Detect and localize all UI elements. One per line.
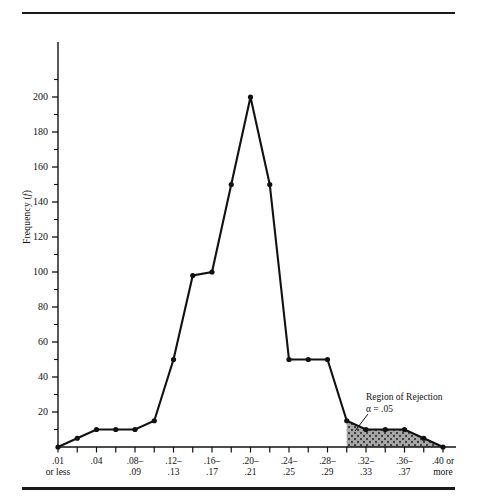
x-tick-label-line2: .29 xyxy=(319,467,336,478)
x-tick-label-line2: .33 xyxy=(358,467,375,478)
x-tick-label-4: .08–.09 xyxy=(127,456,144,478)
x-tick-label-18: .36–.37 xyxy=(396,456,413,478)
y-tick-label-40: 40 xyxy=(18,371,48,382)
x-tick-label-line1: .12– xyxy=(165,456,182,467)
x-tick-label-14: .28–.29 xyxy=(319,456,336,478)
x-tick-label-12: .24–.25 xyxy=(281,456,298,478)
x-tick-label-16: .32–.33 xyxy=(358,456,375,478)
y-axis-title: Frequency (f) xyxy=(22,157,32,277)
annotation-line-1: Region of Rejection xyxy=(366,392,443,402)
y-tick-label-120: 120 xyxy=(18,231,48,242)
region-of-rejection-annotation: Region of Rejection α = .05 xyxy=(366,392,443,415)
x-tick-label-line2: .37 xyxy=(396,467,413,478)
x-tick-label-line1: .28– xyxy=(319,456,336,467)
x-tick-label-line2: .21 xyxy=(242,467,259,478)
x-tick-label-line2: more xyxy=(432,467,454,478)
y-tick-label-180: 180 xyxy=(18,126,48,137)
x-tick-label-line2: .25 xyxy=(281,467,298,478)
y-tick-label-60: 60 xyxy=(18,336,48,347)
x-tick-label-line2: .13 xyxy=(165,467,182,478)
x-tick-label-line1: .32– xyxy=(358,456,375,467)
rejection-region-shading xyxy=(347,421,443,447)
frequency-polygon-svg xyxy=(0,0,477,504)
x-tick-label-6: .12–.13 xyxy=(165,456,182,478)
x-tick-label-line1: .04 xyxy=(91,456,103,467)
x-tick-label-10: .20–.21 xyxy=(242,456,259,478)
figure-container: Frequency (f) 20406080100120140160180200… xyxy=(0,0,477,504)
y-tick-label-160: 160 xyxy=(18,161,48,172)
x-tick-label-20: .40 ormore xyxy=(432,456,454,478)
y-tick-label-20: 20 xyxy=(18,406,48,417)
chart-plot-area: Frequency (f) 20406080100120140160180200… xyxy=(0,0,477,504)
x-tick-label-line1: .36– xyxy=(396,456,413,467)
x-tick-label-line1: .40 or xyxy=(432,456,454,467)
chart-axes xyxy=(52,42,456,453)
annotation-line-2: α = .05 xyxy=(366,404,443,416)
x-tick-label-line1: .01 xyxy=(46,456,71,467)
y-tick-label-80: 80 xyxy=(18,301,48,312)
x-tick-label-line2: or less xyxy=(46,467,71,478)
x-tick-label-0: .01or less xyxy=(46,456,71,478)
x-tick-label-line1: .24– xyxy=(281,456,298,467)
y-tick-label-200: 200 xyxy=(18,91,48,102)
x-tick-label-line1: .08– xyxy=(127,456,144,467)
x-tick-label-line2: .17 xyxy=(204,467,221,478)
y-axis-title-suffix: ) xyxy=(22,190,32,193)
x-tick-label-line2: .09 xyxy=(127,467,144,478)
y-tick-label-140: 140 xyxy=(18,196,48,207)
x-tick-label-8: .16–.17 xyxy=(204,456,221,478)
x-tick-label-line1: .20– xyxy=(242,456,259,467)
x-tick-label-2: .04 xyxy=(91,456,103,467)
x-tick-label-line1: .16– xyxy=(204,456,221,467)
y-tick-label-100: 100 xyxy=(18,266,48,277)
